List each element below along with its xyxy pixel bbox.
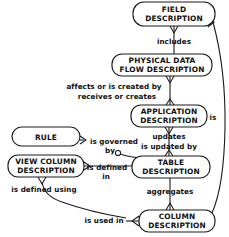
entity-column-description[interactable]: COLUMN DESCRIPTION	[139, 210, 215, 232]
circle-optional-governed	[115, 150, 120, 155]
rel-label-defined-using: is defined using	[11, 185, 76, 194]
rel-label-is: is	[210, 113, 217, 122]
entity-physical-line-1: FLOW DESCRIPTION	[120, 65, 205, 74]
entity-column-line-1: DESCRIPTION	[148, 221, 206, 230]
entity-rule[interactable]: RULE	[12, 127, 80, 146]
entity-physical-line-0: PHYSICAL DATA	[129, 56, 196, 65]
entity-table-line-1: DESCRIPTION	[142, 167, 200, 176]
entity-table-description[interactable]: TABLE DESCRIPTION	[132, 156, 210, 178]
entity-viewcolumn-line-0: VIEW COLUMN	[15, 157, 77, 166]
entity-application-description[interactable]: APPLICATION DESCRIPTION	[131, 105, 207, 127]
entity-table-line-0: TABLE	[158, 158, 184, 167]
entity-field-description-line-0: FIELD	[162, 5, 186, 14]
rel-label-defined-in-line-0: is defined	[87, 163, 128, 172]
entity-field-description[interactable]: FIELD DESCRIPTION	[133, 2, 215, 26]
rel-label-governed-line-0: is governed	[90, 137, 138, 146]
entity-physical-data-flow-description[interactable]: PHYSICAL DATA FLOW DESCRIPTION	[112, 54, 212, 76]
rel-label-used-in: is used in	[84, 216, 123, 225]
entity-application-line-0: APPLICATION	[141, 107, 198, 116]
entity-application-line-1: DESCRIPTION	[140, 116, 198, 125]
entity-column-line-0: COLUMN	[159, 212, 196, 221]
entity-viewcolumn-line-1: DESCRIPTION	[17, 166, 75, 175]
rel-label-includes: includes	[157, 37, 191, 46]
entity-view-column-description[interactable]: VIEW COLUMN DESCRIPTION	[8, 155, 84, 177]
rel-label-affects-line-1: receives or creates	[78, 92, 156, 101]
rel-label-governed-line-1: by	[105, 146, 115, 155]
entity-relationship-diagram: FIELD DESCRIPTION PHYSICAL DATA FLOW DES…	[0, 0, 229, 237]
rel-label-affects-line-0: affects or is created by	[66, 82, 161, 91]
rel-label-updates-line-1: is updated by	[141, 142, 197, 151]
rel-label-defined-in-line-1: in	[102, 172, 110, 181]
rel-label-updates-line-0: updates	[152, 132, 185, 141]
crowsfoot-viewcolumn-defined-using	[38, 177, 46, 184]
entity-rule-line-0: RULE	[35, 133, 57, 142]
rel-label-aggregates: aggregates	[147, 187, 194, 196]
entity-field-description-line-1: DESCRIPTION	[145, 14, 203, 23]
